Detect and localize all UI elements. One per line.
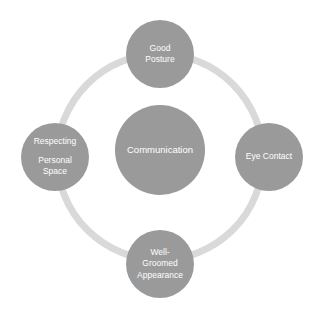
node-good-posture[interactable]: Good Posture (126, 20, 194, 88)
node-well-groomed-appearance-line-3: Appearance (137, 270, 183, 282)
node-well-groomed-appearance-line-1: Well- (150, 247, 169, 259)
node-eye-contact[interactable]: Eye Contact (235, 123, 303, 191)
node-eye-contact-line-1: Eye Contact (246, 151, 292, 163)
node-respecting-personal-space-line-3: Space (43, 166, 67, 178)
node-communication-line-1: Communication (127, 144, 193, 156)
node-well-groomed-appearance[interactable]: Well- Groomed Appearance (126, 230, 194, 298)
node-good-posture-line-1: Good (150, 43, 171, 55)
node-good-posture-line-2: Posture (145, 54, 174, 66)
node-respecting-personal-space-line-2: Personal (38, 155, 72, 167)
node-well-groomed-appearance-line-2: Groomed (142, 258, 177, 270)
node-respecting-personal-space-line-1: Respecting (34, 136, 77, 148)
node-respecting-personal-space[interactable]: Respecting Personal Space (21, 123, 89, 191)
diagram-canvas: Communication Good Posture Eye Contact W… (0, 0, 315, 321)
node-communication[interactable]: Communication (115, 105, 205, 195)
